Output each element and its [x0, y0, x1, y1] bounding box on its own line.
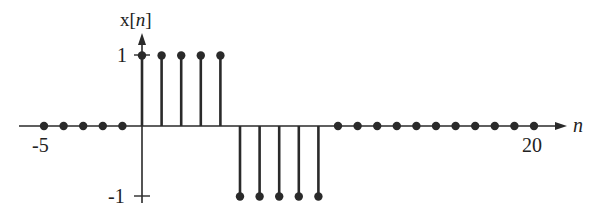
x-axis-arrow-icon	[555, 122, 567, 130]
stem-marker	[432, 122, 440, 130]
stem-marker	[451, 122, 459, 130]
stem-marker	[157, 51, 165, 59]
tick-label-neg1: -1	[108, 185, 125, 207]
stem-plot: x[n] n -5 20 1 -1	[0, 0, 589, 214]
stem-marker	[197, 51, 205, 59]
stem-marker	[236, 192, 244, 200]
stem-marker	[138, 51, 146, 59]
axes	[19, 33, 567, 203]
stem-marker	[118, 122, 126, 130]
stem-marker	[59, 122, 67, 130]
tick-label-neg5: -5	[32, 134, 49, 156]
stem-marker	[216, 51, 224, 59]
stem-marker	[79, 122, 87, 130]
stem-marker	[471, 122, 479, 130]
stem-marker	[40, 122, 48, 130]
tick-label-20: 20	[522, 134, 542, 156]
stem-marker	[510, 122, 518, 130]
stem-marker	[177, 51, 185, 59]
labels: x[n] n -5 20 1 -1	[32, 9, 583, 207]
x-axis-label: n	[573, 114, 583, 136]
stem-marker	[530, 122, 538, 130]
stem-marker	[99, 122, 107, 130]
stem-marker	[255, 192, 263, 200]
stem-marker	[295, 192, 303, 200]
y-axis-label: x[n]	[120, 9, 152, 30]
stem-marker	[275, 192, 283, 200]
stem-marker	[353, 122, 361, 130]
stem-marker	[314, 192, 322, 200]
tick-label-pos1: 1	[117, 44, 127, 66]
stem-marker	[334, 122, 342, 130]
y-axis-arrow-icon	[138, 33, 146, 45]
stem-marker	[373, 122, 381, 130]
stem-marker	[393, 122, 401, 130]
stem-marker	[491, 122, 499, 130]
stem-marker	[412, 122, 420, 130]
